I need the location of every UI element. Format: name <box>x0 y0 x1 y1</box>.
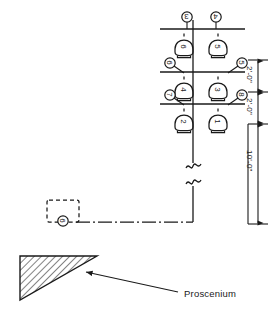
batten-top <box>160 12 245 58</box>
line-break-symbol <box>186 164 201 184</box>
remote-fixture-label: 6 <box>58 218 67 223</box>
proscenium-shape <box>20 256 97 300</box>
fixture-label: 6 <box>179 44 188 49</box>
hanger-tag-label: 6 <box>165 60 174 65</box>
hanger-tag-label: 5 <box>237 60 246 65</box>
hanger-tag-label: 8 <box>237 92 246 97</box>
fixture-label: 3 <box>213 87 222 92</box>
hanger-tag-label: 3 <box>184 12 189 21</box>
proscenium-leader-arrow <box>86 272 178 292</box>
dimension-label-upper: 2'-0" <box>245 66 254 83</box>
fixture-label: 4 <box>179 87 188 92</box>
diagram-canvas <box>0 0 276 311</box>
fixture-label: 1 <box>213 119 222 124</box>
hanger-tag-label: 7 <box>165 92 174 97</box>
proscenium-label: Proscenium <box>184 288 236 299</box>
hanger-tag-label: 4 <box>213 12 218 21</box>
fixture-label: 2 <box>179 119 188 124</box>
dimension-label-lower: 2'-0" <box>245 98 254 115</box>
lighting-plot-diagram: 3 4 6 5 6 5 4 3 7 8 2 1 6 2'-0" 2'-0" 10… <box>0 0 276 311</box>
fixture-label: 5 <box>213 44 222 49</box>
dimension-label-drop: 10'-0" <box>245 150 254 172</box>
dimension-lines <box>248 60 268 224</box>
